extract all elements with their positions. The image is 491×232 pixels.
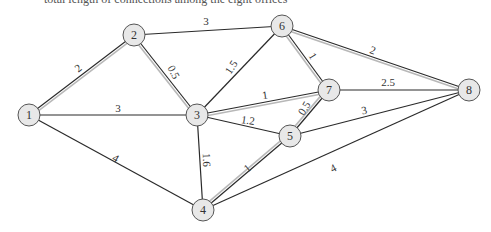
node-8: 8 [458,79,480,101]
node-label: 2 [131,28,137,42]
edge-weights-layer: 23430.51.511.21.6122.50.5314 [72,15,395,175]
edge-2-6 [134,26,282,35]
node-4: 4 [192,199,214,221]
node-5: 5 [279,125,301,147]
edge-6-7 [282,26,329,90]
edge-weight-7-5: 0.5 [295,99,313,117]
edge-highlight-6-7 [280,27,327,91]
edge-weight-3-4: 1.6 [201,153,213,168]
edge-2-3 [134,35,197,115]
node-3: 3 [186,104,208,126]
edge-weight-1-3: 3 [115,102,121,114]
node-label: 6 [279,19,285,33]
edge-weight-7-8: 2.5 [381,76,395,88]
network-graph: 23430.51.511.21.6122.50.5314 12345678 [0,0,491,232]
edge-weight-6-8: 2 [368,43,377,56]
edge-weight-1-4: 4 [111,151,122,164]
edge-weight-1-2: 2 [72,62,84,75]
node-label: 4 [200,203,206,217]
edge-weight-6-7: 1 [306,50,319,61]
edge-weight-2-6: 3 [203,15,209,27]
node-label: 1 [26,108,32,122]
node-7: 7 [318,79,340,101]
edge-weight-3-7: 1 [261,89,268,102]
edge-weight-5-8: 3 [360,103,368,116]
edge-weight-4-8: 4 [328,161,339,174]
node-label: 3 [194,108,200,122]
node-1: 1 [18,104,40,126]
node-2: 2 [123,24,145,46]
edge-highlight-2-3 [132,37,195,117]
node-6: 6 [271,15,293,37]
edge-5-8 [290,90,469,136]
node-label: 7 [326,83,332,97]
edge-weight-3-5: 1.2 [240,113,255,127]
node-label: 5 [287,129,293,143]
node-label: 8 [466,83,472,97]
edge-4-8 [203,90,469,210]
